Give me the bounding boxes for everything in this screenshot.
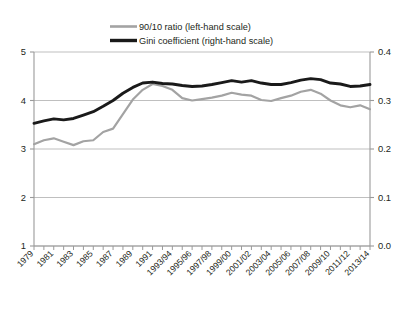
left-axis-tick-label: 3 — [21, 143, 26, 154]
left-axis-tick-label: 4 — [21, 95, 26, 106]
left-axis-tick-label: 2 — [21, 192, 26, 203]
left-axis-tick-label: 5 — [21, 46, 26, 57]
right-axis-tick-label: 0.3 — [378, 95, 391, 106]
right-axis-tick-label: 0.4 — [378, 46, 391, 57]
right-axis-tick-label: 0.0 — [378, 240, 391, 251]
legend-label-ratio: 90/10 ratio (left-hand scale) — [139, 22, 251, 32]
right-axis-tick-label: 0.2 — [378, 143, 391, 154]
chart-svg: 90/10 ratio (left-hand scale) Gini coeff… — [0, 0, 417, 310]
legend-label-gini: Gini coefficient (right-hand scale) — [139, 36, 273, 46]
right-axis-tick-label: 0.1 — [378, 192, 391, 203]
chart-figure: 90/10 ratio (left-hand scale) Gini coeff… — [0, 0, 417, 310]
left-axis-tick-label: 1 — [21, 240, 26, 251]
